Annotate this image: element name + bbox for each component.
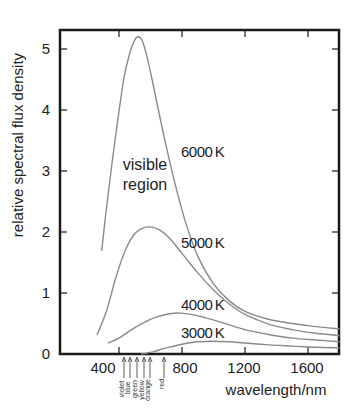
blackbody-spectrum-chart: 0 1 2 3 4 5 400 800 1200 1600 relative s… — [0, 0, 363, 413]
visible-region-label: region — [123, 176, 167, 193]
visible-band-arrows — [122, 357, 166, 378]
y-tick-label: 0 — [42, 345, 50, 362]
curve-3000k — [141, 341, 339, 354]
series-label-5000k: 5000 K — [181, 234, 225, 251]
y-tick-label: 4 — [42, 101, 50, 118]
y-tick-label: 2 — [42, 223, 50, 240]
y-tick-label: 1 — [42, 284, 50, 301]
series-label-6000k: 6000 K — [181, 143, 225, 160]
y-tick-label: 5 — [42, 40, 50, 57]
series-label-4000k: 4000 K — [181, 296, 225, 313]
x-axis-title: wavelength/nm — [225, 381, 327, 398]
x-tick-label: 800 — [172, 359, 197, 376]
y-axis-title: relative spectral flux density — [9, 52, 26, 237]
x-tick-label: 1600 — [290, 359, 323, 376]
visible-region-label: visible — [123, 156, 168, 173]
x-tick-label: 1200 — [227, 359, 260, 376]
band-label-red: red — [158, 379, 165, 389]
y-tick-label: 3 — [42, 162, 50, 179]
band-label-orange: orange — [144, 379, 152, 401]
x-tick-label: 400 — [90, 359, 115, 376]
band-label-blue: blue — [124, 381, 131, 394]
series-label-3000k: 3000 K — [181, 324, 225, 341]
